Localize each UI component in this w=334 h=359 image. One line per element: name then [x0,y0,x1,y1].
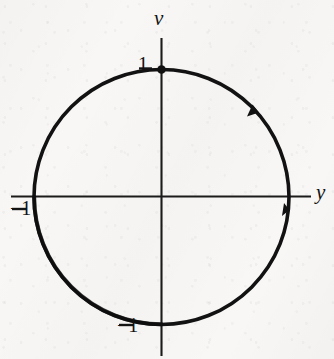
marked-point-top [157,65,166,74]
tick-label-top-one: 1 [138,54,148,74]
unit-circle-ink-overlay [34,197,161,324]
figure-root: v y 1 −1 −1 [0,0,334,359]
tick-label-left-negative-one: −1 [10,198,31,218]
horizontal-axis-label: y [316,182,325,203]
tick-label-bottom-negative-one: −1 [117,315,138,335]
vertical-axis-label: v [154,8,163,29]
phase-plane-plot [0,0,334,359]
